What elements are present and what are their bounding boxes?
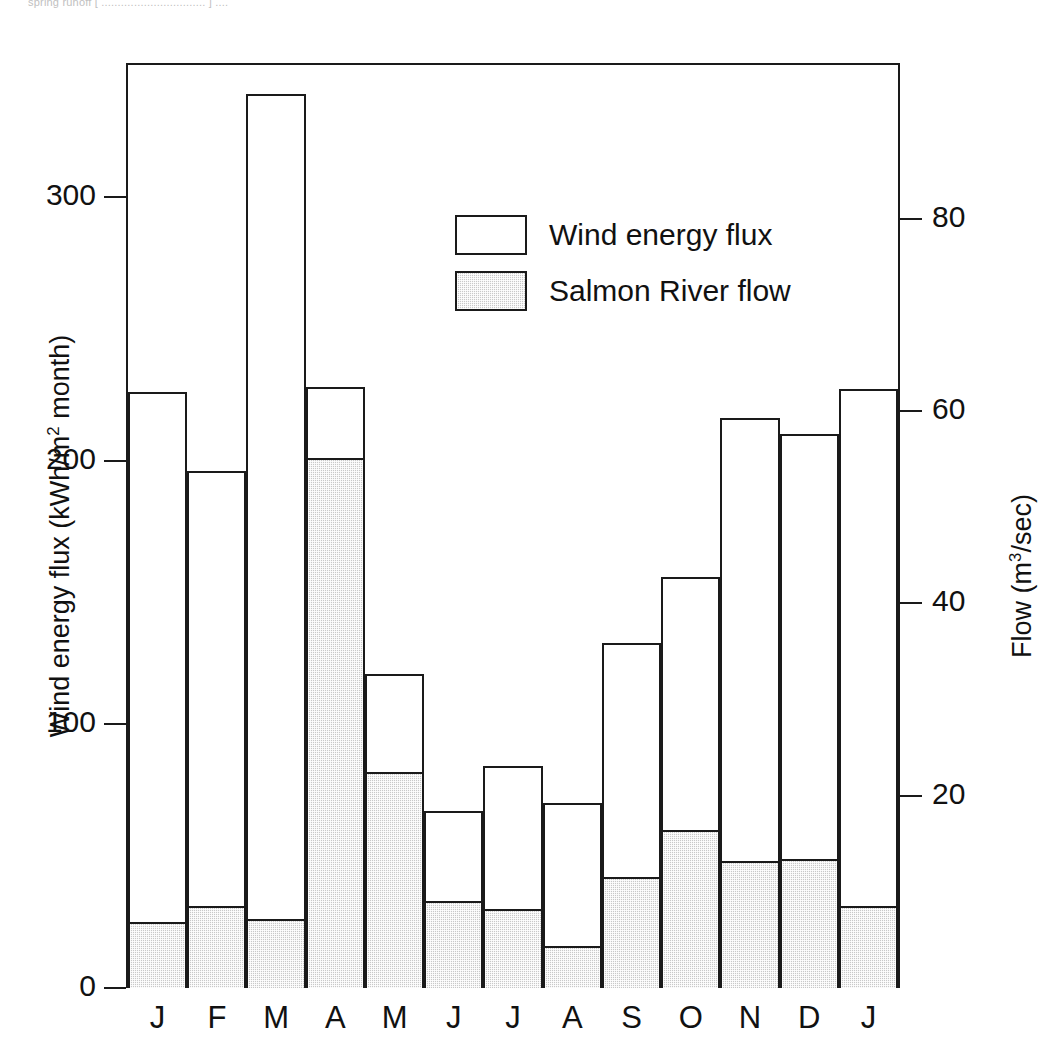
right-axis-tick-label: 60 bbox=[932, 394, 965, 424]
bar-salmon-river-flow bbox=[483, 909, 542, 988]
bar-group bbox=[246, 65, 305, 988]
bar-group bbox=[187, 65, 246, 988]
bar-wind-energy-flux bbox=[424, 811, 483, 988]
bar-group bbox=[720, 65, 779, 988]
bar-group bbox=[128, 65, 187, 988]
x-axis-tick-label: F bbox=[187, 1000, 246, 1036]
bar-group bbox=[661, 65, 720, 988]
right-axis-tick bbox=[900, 410, 922, 412]
right-axis-tick-label: 40 bbox=[932, 586, 965, 616]
bar-group bbox=[780, 65, 839, 988]
bar-group bbox=[483, 65, 542, 988]
left-axis-title-post: month) bbox=[45, 335, 75, 427]
bar-series-container bbox=[128, 65, 898, 988]
bar-wind-energy-flux bbox=[306, 387, 365, 988]
right-axis-tick-label: 80 bbox=[932, 202, 965, 232]
x-axis-tick-label: D bbox=[780, 1000, 839, 1036]
x-axis-tick-label: J bbox=[128, 1000, 187, 1036]
left-axis-tick-label: 0 bbox=[0, 971, 96, 1001]
right-axis-tick-label: 20 bbox=[932, 779, 965, 809]
bar-wind-energy-flux bbox=[187, 471, 246, 988]
legend-label: Salmon River flow bbox=[549, 276, 791, 306]
bar-salmon-river-flow bbox=[246, 919, 305, 988]
bar-wind-energy-flux bbox=[720, 418, 779, 988]
legend-swatch-shaded bbox=[455, 271, 527, 311]
x-axis-tick-label: N bbox=[720, 1000, 779, 1036]
left-axis-tick bbox=[104, 723, 126, 725]
bar-wind-energy-flux bbox=[839, 389, 898, 988]
bar-group bbox=[424, 65, 483, 988]
bar-salmon-river-flow bbox=[187, 906, 246, 988]
x-axis-tick-label: S bbox=[602, 1000, 661, 1036]
bar-wind-energy-flux bbox=[780, 434, 839, 988]
x-axis-tick-label: J bbox=[424, 1000, 483, 1036]
x-axis-tick-label: O bbox=[661, 1000, 720, 1036]
legend-item: Wind energy flux bbox=[455, 215, 791, 255]
chart-legend: Wind energy fluxSalmon River flow bbox=[455, 215, 791, 311]
legend-label: Wind energy flux bbox=[549, 220, 772, 250]
right-axis-title-pre: Flow (m bbox=[1007, 562, 1037, 658]
bar-group bbox=[543, 65, 602, 988]
bar-salmon-river-flow bbox=[661, 830, 720, 988]
bar-salmon-river-flow bbox=[780, 859, 839, 988]
x-axis-tick-label: J bbox=[483, 1000, 542, 1036]
bar-salmon-river-flow bbox=[543, 946, 602, 988]
bar-wind-energy-flux bbox=[128, 392, 187, 988]
right-axis-title-post: /sec) bbox=[1007, 494, 1037, 553]
bar-salmon-river-flow bbox=[424, 901, 483, 988]
left-axis-tick bbox=[104, 460, 126, 462]
bar-salmon-river-flow bbox=[306, 458, 365, 988]
left-axis-title-pre: Wind energy flux (kWh/m bbox=[45, 436, 75, 738]
bar-wind-energy-flux bbox=[246, 94, 305, 988]
bar-group bbox=[306, 65, 365, 988]
x-axis-tick-label: M bbox=[246, 1000, 305, 1036]
right-axis-tick bbox=[900, 795, 922, 797]
right-axis-tick bbox=[900, 602, 922, 604]
bar-wind-energy-flux bbox=[483, 766, 542, 988]
left-axis-tick-label: 300 bbox=[0, 180, 96, 210]
right-axis-title: Flow (m3/sec) bbox=[1006, 366, 1038, 786]
x-axis-tick-label: A bbox=[543, 1000, 602, 1036]
bar-wind-energy-flux bbox=[365, 674, 424, 988]
bar-salmon-river-flow bbox=[128, 922, 187, 988]
bar-group bbox=[602, 65, 661, 988]
legend-swatch-white bbox=[455, 215, 527, 255]
left-axis-title: Wind energy flux (kWh/m2 month) bbox=[44, 326, 76, 746]
bar-salmon-river-flow bbox=[839, 906, 898, 988]
left-axis-tick bbox=[104, 987, 126, 989]
bar-wind-energy-flux bbox=[661, 577, 720, 988]
x-axis-tick-label: J bbox=[839, 1000, 898, 1036]
bar-salmon-river-flow bbox=[365, 772, 424, 988]
bar-salmon-river-flow bbox=[602, 877, 661, 988]
x-axis-tick-label: M bbox=[365, 1000, 424, 1036]
left-axis-tick bbox=[104, 196, 126, 198]
right-axis-tick bbox=[900, 218, 922, 220]
bar-group bbox=[839, 65, 898, 988]
bar-group bbox=[365, 65, 424, 988]
bar-salmon-river-flow bbox=[720, 861, 779, 988]
x-axis-tick-label: A bbox=[306, 1000, 365, 1036]
right-axis-title-exponent: 3 bbox=[1006, 553, 1025, 562]
bar-wind-energy-flux bbox=[602, 643, 661, 988]
x-axis-tick-labels: JFMAMJJASONDJ bbox=[128, 1000, 898, 1036]
bar-wind-energy-flux bbox=[543, 803, 602, 988]
legend-item: Salmon River flow bbox=[455, 271, 791, 311]
left-axis-title-exponent: 2 bbox=[44, 426, 63, 435]
